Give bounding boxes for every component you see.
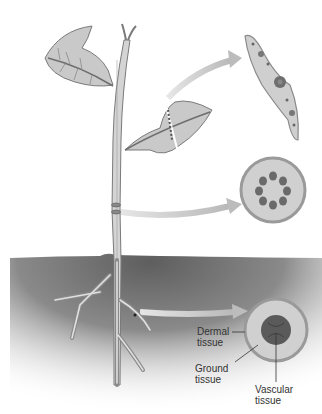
- label-ground-tissue: Ground tissue: [195, 363, 228, 385]
- arrow-stem: [120, 198, 242, 215]
- label-dermal-tissue: Dermal tissue: [197, 326, 229, 348]
- stem-cross-section: [241, 158, 305, 222]
- label-vascular-tissue: Vascular tissue: [255, 384, 293, 406]
- leaf-right: [125, 101, 212, 153]
- arrow-leaf: [168, 50, 242, 98]
- leaf-cross-section: [245, 35, 298, 140]
- leaf-left: [45, 26, 113, 86]
- plant-tissue-diagram: Dermal tissue Ground tissue Vascular tis…: [0, 0, 322, 414]
